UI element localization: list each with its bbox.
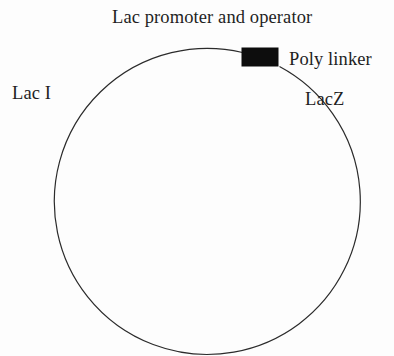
poly-linker-block [242, 48, 278, 66]
label-poly-linker: Poly linker [289, 50, 372, 69]
label-lac-promoter-and-operator: Lac promoter and operator [112, 8, 312, 27]
label-lac-i: Lac I [12, 84, 51, 103]
plasmid-figure: Lac promoter and operator Poly linker La… [0, 0, 394, 356]
label-lacz: LacZ [305, 90, 344, 109]
